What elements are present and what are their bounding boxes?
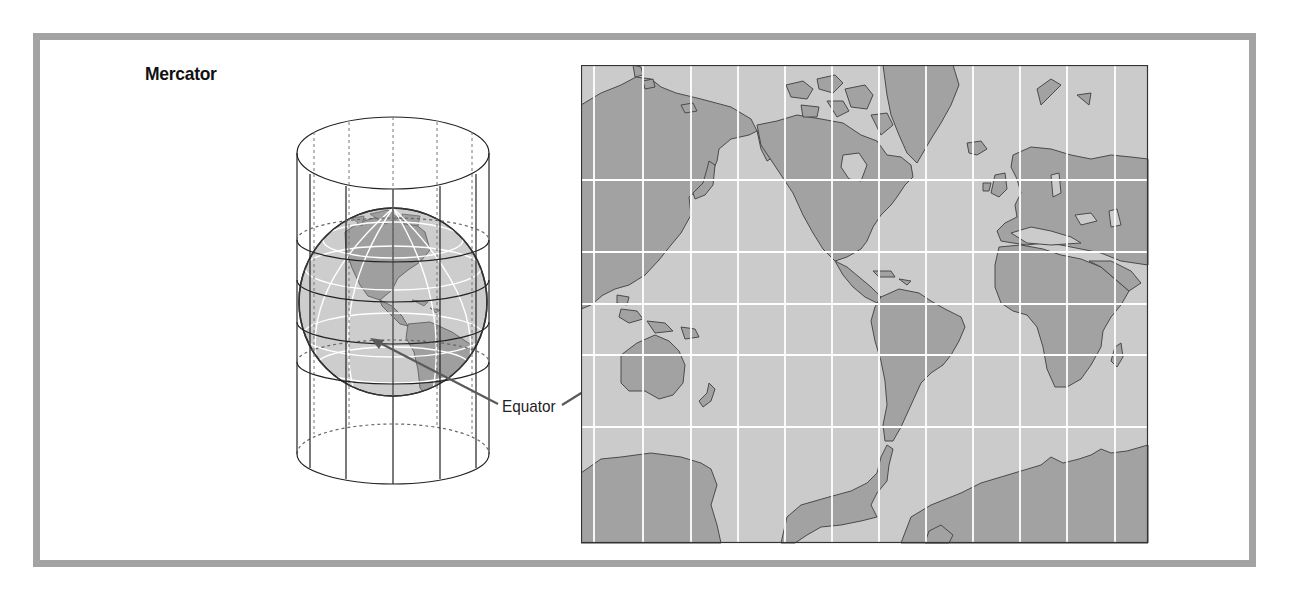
mercator-map bbox=[581, 65, 1149, 544]
equator-label: Equator bbox=[502, 397, 556, 417]
map-antarctica bbox=[581, 453, 721, 543]
